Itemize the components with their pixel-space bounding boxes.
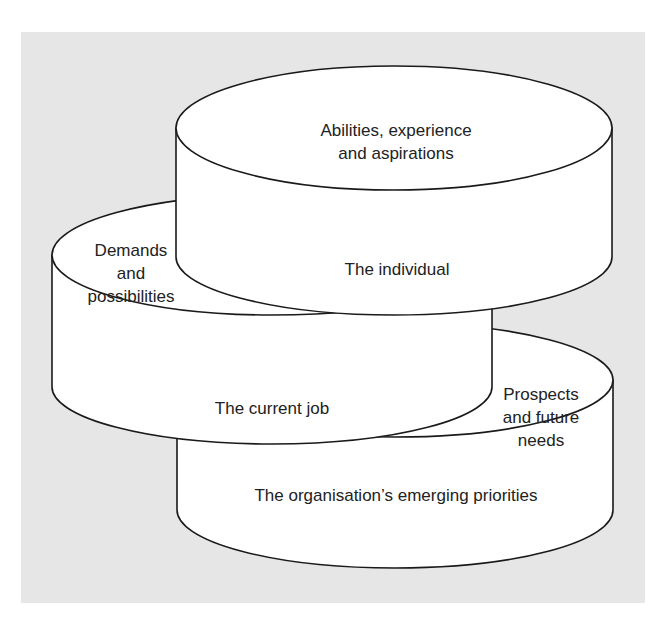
current-job-top-label-line-2: and	[117, 264, 145, 283]
individual-side-label: The individual	[345, 260, 450, 279]
organisation-top-label-line-3: needs	[518, 431, 564, 450]
individual-top-label-line-1: Abilities, experience	[320, 121, 471, 140]
current-job-side-label: The current job	[215, 399, 329, 418]
organisation-top-label-line-1: Prospects	[503, 385, 579, 404]
current-job-top-label-line-1: Demands	[95, 241, 168, 260]
diagram-canvas: Abilities, experience and aspirations Th…	[0, 0, 672, 621]
individual-top-label-line-2: and aspirations	[338, 144, 453, 163]
organisation-side-label: The organisation’s emerging priorities	[254, 486, 537, 505]
organisation-top-label-line-2: and future	[503, 408, 580, 427]
current-job-top-label-line-3: possibilities	[88, 287, 175, 306]
